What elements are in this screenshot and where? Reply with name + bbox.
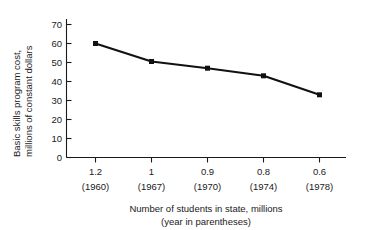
x-axis-tick-labels: 1.2 1 0.9 0.8 0.6 <box>89 166 326 177</box>
x-axis-ticks <box>96 158 320 163</box>
x-axis-year-labels: (1960) (1967) (1970) (1974) (1978) <box>82 181 333 192</box>
data-point-1 <box>93 41 98 46</box>
y-tick-label-60: 60 <box>51 38 62 49</box>
x-tick-label-5: 0.6 <box>313 166 326 177</box>
chart-container: Basic skills program cost, millions of c… <box>0 0 371 230</box>
x-tick-label-2: 1 <box>149 166 154 177</box>
y-tick-label-50: 50 <box>51 57 62 68</box>
x-year-label-3: (1970) <box>194 181 221 192</box>
x-year-label-5: (1978) <box>306 181 333 192</box>
y-tick-label-10: 10 <box>51 133 62 144</box>
x-year-label-4: (1974) <box>250 181 277 192</box>
x-axis-label-group: Number of students in state, millions (y… <box>129 203 282 227</box>
y-tick-label-70: 70 <box>51 19 62 30</box>
x-axis-label-line2: (year in parentheses) <box>161 216 251 227</box>
line-chart: Basic skills program cost, millions of c… <box>0 0 371 230</box>
y-tick-label-20: 20 <box>51 114 62 125</box>
y-axis-tick-labels: 0 10 20 30 40 50 60 70 <box>51 19 62 163</box>
x-year-label-2: (1967) <box>138 181 165 192</box>
y-axis-label-line2: millions of constant dollars <box>23 45 34 157</box>
x-year-label-1: (1960) <box>82 181 109 192</box>
x-tick-label-1: 1.2 <box>89 166 102 177</box>
y-axis-label-group: Basic skills program cost, millions of c… <box>11 45 34 157</box>
y-axis-label-line1: Basic skills program cost, <box>11 50 22 157</box>
data-point-5 <box>317 92 322 97</box>
y-tick-label-0: 0 <box>57 152 62 163</box>
data-point-3 <box>205 66 210 71</box>
x-tick-label-3: 0.9 <box>201 166 214 177</box>
data-point-2 <box>149 59 154 64</box>
x-tick-label-4: 0.8 <box>257 166 270 177</box>
axes <box>67 19 347 158</box>
x-axis-label-line1: Number of students in state, millions <box>129 203 282 214</box>
y-tick-label-40: 40 <box>51 76 62 87</box>
y-axis-ticks <box>67 25 72 158</box>
y-tick-label-30: 30 <box>51 95 62 106</box>
data-point-4 <box>261 73 266 78</box>
data-points <box>93 41 322 97</box>
